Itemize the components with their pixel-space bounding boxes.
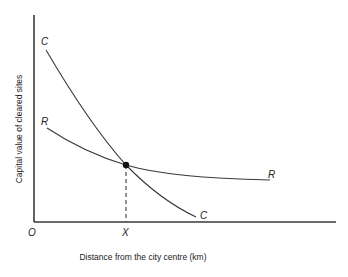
label-c-start: C [41,36,49,47]
origin-label: O [28,227,36,238]
label-r-end: R [268,169,275,180]
diagram-canvas: C R R C O X Distance from the city centr… [0,0,348,277]
label-r-start: R [41,116,48,127]
curve-r [47,128,270,180]
curve-c [46,50,196,217]
x-marker-label: X [121,227,129,238]
x-axis-title: Distance from the city centre (km) [79,252,206,262]
label-c-end: C [200,210,208,221]
y-axis-title: Capital value of cleared sites [14,75,24,184]
intersection-point [123,162,129,168]
